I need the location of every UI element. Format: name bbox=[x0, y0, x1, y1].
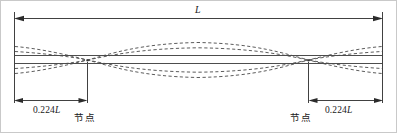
arrowhead-right-offset-start bbox=[309, 98, 318, 103]
span-dimension-label: L bbox=[195, 5, 201, 15]
left-offset-dimension-label: 0.224L bbox=[33, 106, 60, 116]
left-offset-symbol: L bbox=[55, 105, 60, 115]
node-callout-right: 节点 bbox=[290, 113, 311, 123]
left-offset-value: 0.224 bbox=[33, 105, 55, 115]
span-dimension bbox=[14, 16, 383, 21]
right-offset-dimension bbox=[309, 98, 384, 103]
right-offset-symbol: L bbox=[347, 105, 352, 115]
right-offset-dimension-label: 0.224L bbox=[325, 106, 352, 116]
node-callout-left: 节点 bbox=[74, 113, 95, 123]
curve-lower-inner bbox=[15, 52, 382, 73]
arrowhead-left-span bbox=[14, 16, 24, 21]
node-marker-right bbox=[307, 59, 309, 61]
node-marker-left bbox=[86, 59, 88, 61]
left-offset-dimension bbox=[14, 98, 88, 103]
right-offset-value: 0.224 bbox=[325, 105, 347, 115]
mode-shape-curve-group bbox=[15, 43, 382, 78]
arrowhead-left-offset-start bbox=[14, 98, 23, 103]
curve-lower-outer bbox=[15, 47, 382, 78]
mode-shape-figure: L 0.224L 0.224L 节点 节点 bbox=[0, 0, 397, 133]
arrowhead-right-offset-end bbox=[374, 98, 383, 103]
arrowhead-right-span bbox=[373, 16, 383, 21]
arrowhead-left-offset-end bbox=[79, 98, 88, 103]
curve-upper-inner bbox=[15, 48, 382, 69]
curve-upper-outer bbox=[15, 43, 382, 74]
